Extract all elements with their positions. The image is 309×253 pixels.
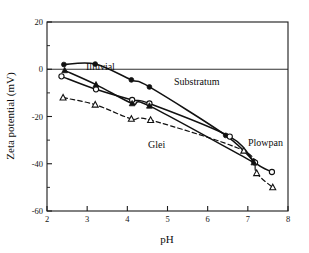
y-tick-label: -60 (32, 206, 43, 216)
data-point-illuvial (93, 87, 98, 92)
series-markers-glei (60, 94, 276, 189)
data-point-glei (60, 94, 66, 100)
axis-ticks-group (47, 22, 288, 211)
y-tick-label: -20 (32, 112, 43, 122)
x-tick-label: 8 (286, 214, 290, 224)
x-tick-label: 7 (246, 214, 250, 224)
y-tick-label: -40 (32, 159, 43, 169)
data-point-glei (128, 116, 134, 122)
y-axis-title: Zeta potential (mV) (4, 72, 17, 160)
annotation-illuvial: Illuvial (86, 61, 115, 72)
x-tick-label: 3 (85, 214, 89, 224)
zeta-potential-chart: 2345678200-20-40-60 SubstratumIlluvialPl… (0, 0, 309, 253)
annotation-substratum: Substratum (174, 76, 220, 87)
data-point-substratum (147, 85, 152, 90)
x-tick-label: 4 (125, 214, 130, 224)
annotation-glei: Glei (148, 139, 165, 150)
annotation-plowpan: Plowpan (248, 137, 283, 148)
data-point-glei (148, 117, 154, 123)
chart-canvas: 2345678200-20-40-60 SubstratumIlluvialPl… (0, 0, 309, 253)
x-tick-label: 6 (206, 214, 210, 224)
data-point-illuvial (227, 134, 232, 139)
data-curves-group (61, 63, 272, 187)
y-tick-label: 20 (35, 17, 44, 27)
data-markers-group (59, 62, 276, 190)
data-point-substratum (129, 77, 134, 82)
x-tick-label: 2 (45, 214, 49, 224)
plot-frame (47, 22, 288, 211)
x-axis-title: pH (160, 233, 174, 245)
x-tick-label: 5 (165, 214, 169, 224)
data-point-plowpan (62, 67, 68, 72)
data-point-substratum (61, 62, 66, 67)
data-point-illuvial (269, 169, 274, 174)
data-point-glei (254, 170, 260, 176)
tick-labels-group: 2345678200-20-40-60 (32, 17, 290, 224)
y-tick-label: 0 (39, 64, 43, 74)
data-point-illuvial (59, 74, 64, 79)
data-point-glei (92, 101, 98, 107)
series-annotations-group: SubstratumIlluvialPlowpanGlei (86, 61, 283, 150)
